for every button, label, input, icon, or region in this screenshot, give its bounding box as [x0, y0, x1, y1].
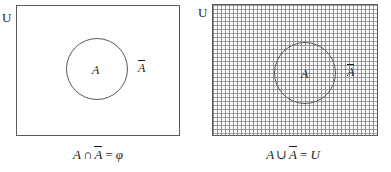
set-a-complement-label-text: A: [138, 60, 145, 74]
caption-left-operand: A: [266, 147, 274, 162]
universal-set-label: U: [198, 6, 207, 19]
caption-operator-intersection: ∩: [81, 147, 94, 162]
caption-result-universal-set: U: [310, 147, 319, 162]
panel-union: U A A A∪A=U: [195, 0, 391, 172]
set-a-label: A: [92, 64, 99, 76]
panel-intersection: U A A A∩A=φ: [0, 0, 196, 172]
caption-operator-union: ∪: [274, 147, 289, 162]
caption-equals-sign: =: [297, 147, 310, 162]
caption-union: A∪A=U: [195, 146, 391, 163]
caption-right-operand: A: [289, 146, 297, 161]
caption-result-empty-set: φ: [116, 147, 123, 162]
set-a-complement-label: A: [347, 64, 354, 78]
set-a-label: A: [301, 68, 308, 80]
caption-intersection: A∩A=φ: [0, 146, 196, 163]
set-a-complement-label-text: A: [347, 64, 354, 78]
universal-set-label: U: [2, 11, 11, 24]
caption-left-operand: A: [73, 147, 81, 162]
set-a-complement-label: A: [138, 60, 145, 74]
venn-diagram-figure: U A A A∩A=φ U A A A∪A=U: [0, 0, 391, 172]
caption-equals-sign: =: [102, 147, 115, 162]
